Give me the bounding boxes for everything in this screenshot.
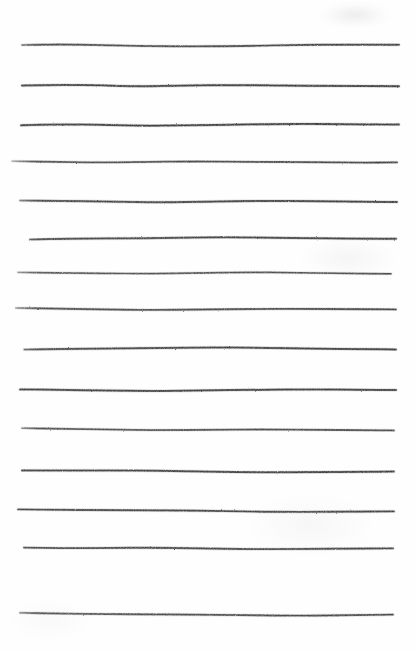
- page-background: [0, 0, 417, 650]
- ruled-lines-canvas: [0, 0, 417, 650]
- scanned-page: [0, 0, 417, 650]
